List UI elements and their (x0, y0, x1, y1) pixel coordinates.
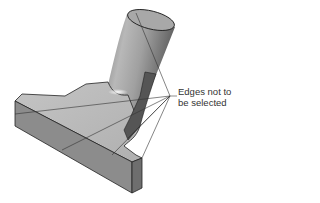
surface-highlight (108, 89, 128, 95)
plate-side-face (132, 158, 142, 193)
callout-label-line1: Edges not to (178, 86, 231, 97)
callout-label-line2: be selected (178, 97, 227, 108)
